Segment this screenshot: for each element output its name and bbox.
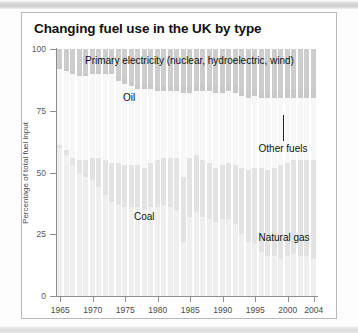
column-segment-coal (142, 210, 147, 296)
stacked-column (70, 49, 75, 296)
chart-title: Changing fuel use in the UK by type (34, 21, 262, 36)
column-segment-coal (187, 217, 192, 296)
x-tick-mark (190, 297, 191, 302)
column-segment-coal (57, 148, 62, 296)
stacked-column (239, 49, 244, 296)
column-segment-oil (148, 89, 153, 163)
column-segment-primary-electricity (311, 49, 316, 89)
column-segment-other-fuels (109, 71, 114, 73)
column-segment-coal (116, 205, 121, 296)
column-segment-other-fuels (252, 89, 257, 96)
scan-artifact-top (0, 0, 358, 9)
stacked-column (285, 49, 290, 296)
column-segment-coal (168, 207, 173, 296)
column-segment-oil (207, 91, 212, 163)
column-segment-other-fuels (135, 84, 140, 89)
x-tick-mark (223, 297, 224, 302)
column-segment-other-fuels (226, 84, 231, 91)
column-segment-oil (90, 74, 95, 158)
column-segment-other-fuels (103, 71, 108, 73)
column-segment-other-fuels (311, 89, 316, 99)
column-segment-oil (77, 76, 82, 160)
column-segment-oil (64, 71, 69, 150)
column-segment-primary-electricity (77, 49, 82, 74)
column-segment-natural-gas (187, 158, 192, 217)
x-axis-line (56, 296, 318, 297)
other-fuels-leader-line (283, 115, 284, 141)
column-segment-other-fuels (233, 86, 238, 93)
column-segment-other-fuels (155, 86, 160, 91)
plot-area (57, 49, 317, 296)
stacked-column (174, 49, 179, 296)
stacked-column (90, 49, 95, 296)
column-segment-natural-gas (168, 158, 173, 207)
column-segment-oil (109, 74, 114, 163)
stacked-column (129, 49, 134, 296)
stacked-column (142, 49, 147, 296)
column-segment-natural-gas (77, 160, 82, 172)
column-segment-other-fuels (181, 86, 186, 93)
column-segment-other-fuels (213, 86, 218, 93)
y-tick-mark (50, 234, 56, 235)
stacked-column (77, 49, 82, 296)
stacked-column (83, 49, 88, 296)
column-segment-other-fuels (272, 91, 277, 98)
column-segment-oil (259, 98, 264, 167)
stacked-column (278, 49, 283, 296)
column-segment-natural-gas (200, 160, 205, 217)
stacked-column (64, 49, 69, 296)
stacked-column (187, 49, 192, 296)
column-segment-other-fuels (168, 86, 173, 91)
column-segment-natural-gas (239, 168, 244, 235)
y-tick-mark (50, 49, 56, 50)
column-segment-coal (200, 217, 205, 296)
stacked-column (148, 49, 153, 296)
column-segment-oil (187, 93, 192, 157)
column-segment-other-fuels (246, 91, 251, 98)
column-segment-other-fuels (83, 74, 88, 76)
column-segment-natural-gas (70, 158, 75, 165)
column-segment-other-fuels (174, 86, 179, 91)
column-segment-coal (194, 212, 199, 296)
column-segment-oil (57, 69, 62, 146)
column-segment-natural-gas (278, 165, 283, 259)
column-segment-coal (161, 205, 166, 296)
x-tick-label: 1995 (246, 305, 265, 315)
column-segment-other-fuels (194, 84, 199, 91)
x-tick-mark (93, 297, 94, 302)
x-tick-label: 1975 (116, 305, 135, 315)
column-segment-other-fuels (148, 84, 153, 89)
column-segment-natural-gas (161, 158, 166, 205)
column-segment-coal (207, 219, 212, 296)
x-tick-mark (158, 297, 159, 302)
column-segment-other-fuels (298, 89, 303, 99)
column-segment-natural-gas (246, 170, 251, 242)
column-segment-oil (252, 96, 257, 168)
column-segment-primary-electricity (70, 49, 75, 71)
stacked-column (200, 49, 205, 296)
column-segment-oil (194, 91, 199, 155)
x-tick-mark (288, 297, 289, 302)
band-label-oil: Oil (123, 92, 135, 103)
column-segment-natural-gas (207, 163, 212, 220)
stacked-column (304, 49, 309, 296)
column-segment-coal (252, 244, 257, 296)
column-segment-coal (109, 202, 114, 296)
column-segment-coal (64, 155, 69, 296)
column-segment-other-fuels (187, 86, 192, 93)
column-segment-natural-gas (213, 168, 218, 222)
stacked-column (291, 49, 296, 296)
column-segment-natural-gas (90, 158, 95, 180)
column-segment-oil (200, 91, 205, 160)
column-segment-primary-electricity (57, 49, 62, 66)
column-segment-other-fuels (285, 89, 290, 99)
column-segment-oil (96, 74, 101, 158)
y-tick-label: 100 (24, 44, 46, 54)
column-segment-coal (181, 242, 186, 296)
stacked-column (109, 49, 114, 296)
column-segment-natural-gas (83, 160, 88, 177)
y-tick-label: 50 (24, 168, 46, 178)
column-segment-natural-gas (233, 165, 238, 224)
column-segment-other-fuels (239, 89, 244, 96)
y-tick-label: 25 (24, 229, 46, 239)
